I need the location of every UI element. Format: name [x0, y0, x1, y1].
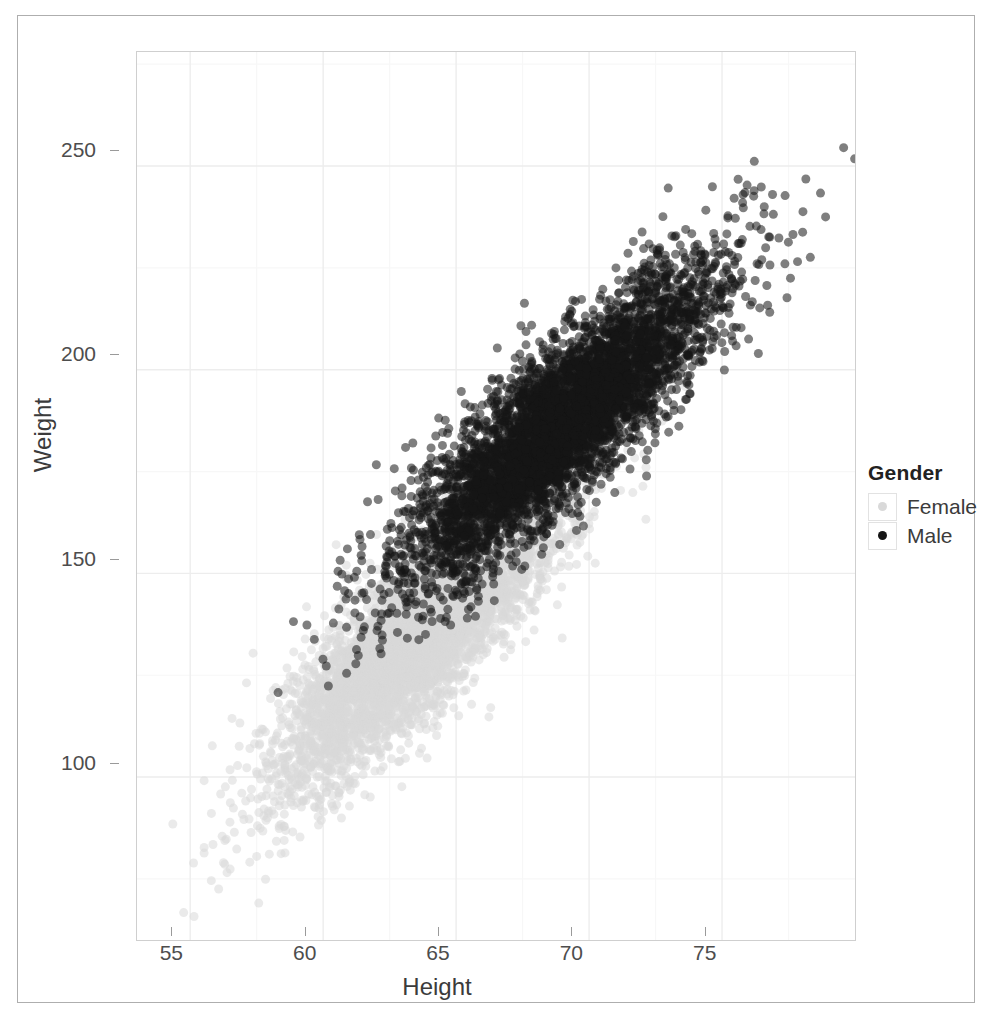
x-tick-label: 65 [426, 941, 449, 965]
x-tick-mark [305, 927, 306, 936]
y-tick-mark [110, 763, 119, 764]
y-tick-label: 100 [28, 751, 96, 775]
x-tick-label: 70 [560, 941, 583, 965]
legend-label-male: Male [907, 524, 953, 548]
x-tick-label: 55 [160, 941, 183, 965]
x-tick-mark [438, 927, 439, 936]
figure-outer-frame: 100150200250 5560657075 Height Weight Ge… [17, 15, 975, 1003]
legend-key-female [868, 493, 897, 521]
legend-marker-male-icon [878, 531, 887, 540]
legend-marker-female-icon [878, 502, 887, 511]
legend-key-male [868, 522, 897, 550]
x-tick-mark [571, 927, 572, 936]
y-tick-label: 150 [28, 547, 96, 571]
y-tick-mark [110, 354, 119, 355]
scatter-plot-canvas [137, 52, 855, 940]
y-tick-mark [110, 559, 119, 560]
scatter-plot-panel[interactable] [136, 51, 856, 941]
legend: Gender Female Male [868, 461, 996, 550]
legend-item-male[interactable]: Male [868, 521, 996, 550]
y-tick-label: 250 [28, 138, 96, 162]
x-tick-mark [705, 927, 706, 936]
legend-item-female[interactable]: Female [868, 492, 996, 521]
x-tick-label: 60 [293, 941, 316, 965]
y-tick-mark [110, 150, 119, 151]
figure-root: 100150200250 5560657075 Height Weight Ge… [0, 0, 996, 1021]
x-tick-mark [171, 927, 172, 936]
scatter-points-male [274, 143, 855, 697]
y-axis-title: Weight [29, 355, 57, 515]
x-tick-label: 75 [693, 941, 716, 965]
x-axis-title: Height [18, 973, 856, 1001]
legend-title: Gender [868, 461, 996, 485]
legend-label-female: Female [907, 495, 977, 519]
